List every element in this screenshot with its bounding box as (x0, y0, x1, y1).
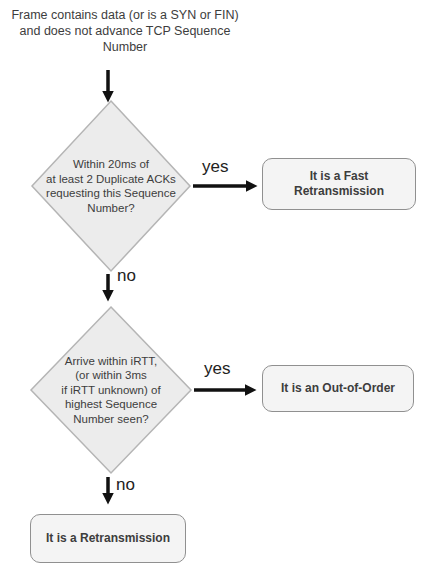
outcome-retransmission: It is a Retransmission (30, 514, 186, 563)
decision2-no-label: no (116, 475, 135, 494)
decision1-yes-label: yes (202, 157, 228, 176)
decision1-no-label: no (117, 266, 136, 285)
decision2-question: Arrive within iRTT, (or within 3ms if iR… (31, 307, 191, 473)
outcome-fast-retransmission: It is a Fast Retransmission (262, 158, 416, 210)
outcome-out-of-order: It is an Out-of-Order (262, 365, 414, 412)
flow-start-condition: Frame contains data (or is a SYN or FIN)… (0, 7, 250, 55)
flowchart-shapes (0, 0, 434, 581)
decision2-yes-label: yes (204, 359, 230, 378)
tcp-retransmission-flowchart: Frame contains data (or is a SYN or FIN)… (0, 0, 434, 581)
decision1-question: Within 20ms of at least 2 Duplicate ACKs… (31, 101, 191, 271)
